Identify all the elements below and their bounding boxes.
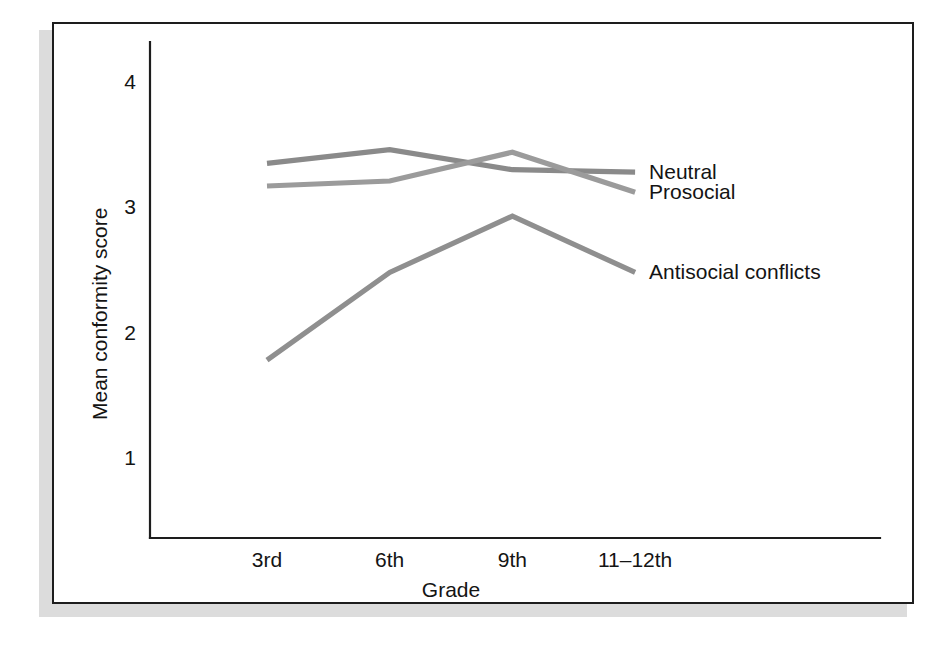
y-tick-label: 1: [104, 446, 136, 470]
figure-root: 4321 3rd6th9th11–12th NeutralProsocialAn…: [0, 0, 946, 660]
series-label-prosocial: Prosocial: [649, 180, 735, 204]
x-tick-label: 6th: [375, 548, 404, 572]
y-axis-title: Mean conformity score: [88, 208, 112, 420]
x-tick-label: 11–12th: [598, 548, 672, 572]
x-axis-title: Grade: [422, 578, 480, 602]
x-tick-label: 9th: [498, 548, 527, 572]
y-tick-label: 4: [104, 70, 136, 94]
figure-frame-border: [52, 22, 914, 604]
series-label-antisocial-conflicts: Antisocial conflicts: [649, 260, 821, 284]
x-tick-label: 3rd: [252, 548, 282, 572]
